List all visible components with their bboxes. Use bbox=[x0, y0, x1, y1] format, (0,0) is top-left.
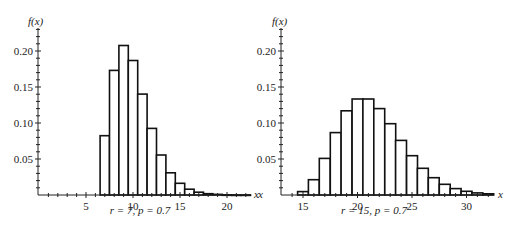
chart-caption: r = 7, p = 0.7 bbox=[110, 204, 171, 216]
chart-left: f(x) r = 7, p = 0.7 0.050.100.150.205101… bbox=[14, 15, 259, 216]
bars bbox=[298, 99, 494, 195]
chart-right: f(x) r = 15, p = 0.7 0.050.100.150.20152… bbox=[257, 15, 503, 216]
figure: f(x) r = 7, p = 0.7 0.050.100.150.205101… bbox=[0, 0, 515, 237]
y-tick-label: 0.20 bbox=[14, 45, 34, 57]
x-tick-label: 30 bbox=[461, 200, 473, 212]
bar bbox=[119, 46, 128, 196]
bar bbox=[341, 111, 352, 195]
bar bbox=[319, 158, 330, 195]
y-tick-label: 0.15 bbox=[257, 81, 277, 93]
bar bbox=[308, 180, 319, 195]
bar bbox=[385, 124, 396, 195]
bar bbox=[166, 173, 175, 195]
x-tick-label: 20 bbox=[352, 200, 364, 212]
bar bbox=[363, 99, 374, 195]
bar bbox=[417, 168, 428, 195]
bar bbox=[374, 109, 385, 195]
bar bbox=[138, 94, 147, 195]
bar bbox=[396, 140, 407, 195]
y-tick-label: 0.10 bbox=[14, 117, 34, 129]
bar bbox=[157, 155, 166, 195]
x-tick-label: 25 bbox=[407, 200, 419, 212]
bar bbox=[407, 156, 418, 195]
bar bbox=[147, 128, 156, 195]
bar bbox=[100, 136, 109, 195]
bar bbox=[330, 133, 341, 195]
bar bbox=[128, 61, 137, 196]
y-tick-label: 0.15 bbox=[14, 81, 34, 93]
x-tick-label: 15 bbox=[175, 200, 187, 212]
x-axis-label: x bbox=[257, 188, 263, 200]
x-tick-label: 10 bbox=[128, 200, 140, 212]
bar bbox=[352, 99, 363, 195]
y-axis-label: f(x) bbox=[272, 15, 288, 28]
y-tick-label: 0.20 bbox=[257, 45, 277, 57]
y-axis-label: f(x) bbox=[28, 15, 44, 28]
x-axis-label: x bbox=[497, 188, 503, 200]
bar bbox=[110, 70, 119, 195]
y-tick-label: 0.05 bbox=[257, 153, 277, 165]
bar bbox=[428, 178, 439, 195]
y-tick-label: 0.10 bbox=[257, 117, 277, 129]
x-tick-label: 5 bbox=[83, 200, 89, 212]
x-tick-label: 20 bbox=[222, 200, 234, 212]
bars bbox=[100, 46, 250, 196]
y-tick-label: 0.05 bbox=[14, 153, 34, 165]
x-tick-label: 15 bbox=[298, 200, 310, 212]
chart-caption: r = 15, p = 0.7 bbox=[341, 204, 407, 216]
